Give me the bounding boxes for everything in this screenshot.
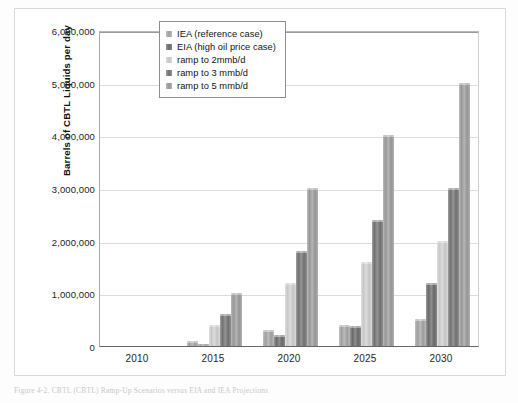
scanned-page: Barrels of CBTL Liquids per day 6,000,00… xyxy=(0,0,518,403)
bar xyxy=(263,330,274,346)
plot-area xyxy=(99,31,479,347)
bar-fill xyxy=(307,188,318,346)
y-axis-tick-label: 5,000,000 xyxy=(21,78,95,89)
bar-group xyxy=(404,32,480,346)
y-axis-tick-label: 1,000,000 xyxy=(21,289,95,300)
legend-swatch-icon xyxy=(166,57,172,63)
bar-fill xyxy=(263,330,274,346)
bar xyxy=(187,341,198,346)
bar xyxy=(350,326,361,346)
y-axis-tick-label: 4,000,000 xyxy=(21,131,95,142)
bar xyxy=(339,325,350,346)
bar xyxy=(307,188,318,346)
x-axis-tick-label: 2030 xyxy=(429,353,452,364)
bar xyxy=(209,325,220,346)
legend-label: ramp to 2mmb/d xyxy=(177,55,245,65)
bar xyxy=(426,283,437,346)
legend-item: ramp to 3 mmb/d xyxy=(166,66,276,79)
legend-item: ramp to 2mmb/d xyxy=(166,53,276,66)
bar-fill xyxy=(426,283,437,346)
bar-fill xyxy=(459,83,470,346)
bar xyxy=(274,335,285,346)
bar xyxy=(198,344,209,346)
bar-fill xyxy=(437,241,448,346)
y-axis-tick-label: 3,000,000 xyxy=(21,184,95,195)
legend-label: IEA (reference case) xyxy=(177,29,263,39)
x-axis-tick-label: 2020 xyxy=(277,353,300,364)
x-axis-tick-label: 2025 xyxy=(353,353,376,364)
bar xyxy=(361,262,372,346)
y-axis-tick-label: 2,000,000 xyxy=(21,236,95,247)
bar-fill xyxy=(285,283,296,346)
bar-fill xyxy=(350,326,361,346)
legend-swatch-icon xyxy=(166,83,172,89)
legend-item: EIA (high oil price case) xyxy=(166,40,276,53)
bar-chart: Barrels of CBTL Liquids per day 6,000,00… xyxy=(15,9,507,377)
bar xyxy=(296,251,307,346)
legend-label: EIA (high oil price case) xyxy=(177,42,276,52)
legend-label: ramp to 5 mmb/d xyxy=(177,81,248,91)
legend-item: ramp to 5 mmb/d xyxy=(166,79,276,92)
bar xyxy=(231,293,242,346)
legend-item: IEA (reference case) xyxy=(166,27,276,40)
x-axis-tick-label: 2015 xyxy=(201,353,224,364)
bar-fill xyxy=(220,314,231,346)
bar-fill xyxy=(231,293,242,346)
figure-frame: Barrels of CBTL Liquids per day 6,000,00… xyxy=(14,8,506,376)
bar xyxy=(372,220,383,346)
legend-label: ramp to 3 mmb/d xyxy=(177,68,248,78)
bar-fill xyxy=(339,325,350,346)
x-axis-tick-label: 2010 xyxy=(125,353,148,364)
bar xyxy=(437,241,448,346)
y-axis-tick-label: 6,000,000 xyxy=(21,26,95,37)
bar xyxy=(448,188,459,346)
bar xyxy=(383,135,394,346)
bar xyxy=(220,314,231,346)
legend-swatch-icon xyxy=(166,70,172,76)
bar-group xyxy=(328,32,404,346)
bar xyxy=(415,319,426,346)
bar-fill xyxy=(415,319,426,346)
y-axis-tick-label: 0 xyxy=(21,342,95,353)
bar-fill xyxy=(209,325,220,346)
bar-fill xyxy=(187,341,198,346)
bar-fill xyxy=(383,135,394,346)
chart-legend: IEA (reference case)EIA (high oil price … xyxy=(159,21,286,98)
bar-fill xyxy=(296,251,307,346)
bar-fill xyxy=(198,344,209,346)
bar-fill xyxy=(361,262,372,346)
legend-swatch-icon xyxy=(166,44,172,50)
figure-caption: Figure 4-2. CBTL (CBTL) Ramp-Up Scenario… xyxy=(14,386,484,400)
bar-fill xyxy=(448,188,459,346)
legend-swatch-icon xyxy=(166,31,172,37)
bar xyxy=(459,83,470,346)
bar xyxy=(285,283,296,346)
bar-fill xyxy=(372,220,383,346)
bar-fill xyxy=(274,335,285,346)
